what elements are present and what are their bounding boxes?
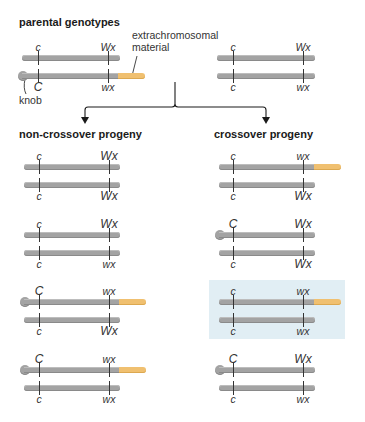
parental-pair-1: c Wx C wx xyxy=(22,44,162,94)
locus-wx-tick xyxy=(303,295,304,309)
chromosome xyxy=(24,385,120,391)
locus-c-tick xyxy=(38,51,39,65)
non-crossover-pair-4: C wx c wx xyxy=(24,356,164,406)
chromosome xyxy=(24,232,120,238)
locus-c-tick xyxy=(233,51,234,65)
crossover-pair-1: c wx c Wx xyxy=(219,153,359,203)
locus-c-tick xyxy=(39,363,40,377)
gene-label-c: c xyxy=(230,393,235,405)
locus-wx-tick xyxy=(303,228,304,242)
chromosome xyxy=(217,55,315,61)
chromosome-extra xyxy=(219,164,341,170)
locus-c-tick xyxy=(233,228,234,242)
gene-label-c: c xyxy=(230,258,235,270)
gene-label-wx: Wx xyxy=(100,189,117,203)
gene-label-wx: Wx xyxy=(294,189,311,203)
gene-label-wx: wx xyxy=(103,258,116,270)
gene-label-c: c xyxy=(36,393,41,405)
locus-wx-tick xyxy=(109,160,110,174)
gene-label-c: c xyxy=(230,190,235,202)
chromosome xyxy=(219,385,315,391)
gene-label-c: c xyxy=(230,325,235,337)
gene-label-c: C xyxy=(34,80,43,94)
chromosome xyxy=(22,55,120,61)
gene-label-c: c xyxy=(230,81,235,93)
extrachromosomal-segment xyxy=(314,164,341,170)
parental-pair-2: c Wx c wx xyxy=(217,44,357,94)
extrachromosomal-segment xyxy=(119,299,146,305)
gene-label-wx: Wx xyxy=(294,257,311,271)
chromosome xyxy=(24,317,120,323)
extrachromosomal-segment xyxy=(118,73,145,79)
chromosome xyxy=(217,73,315,79)
gene-label-wx: wx xyxy=(102,81,115,93)
gene-label-c: c xyxy=(36,258,41,270)
gene-label-wx: wx xyxy=(297,81,310,93)
chromosome-knobbed xyxy=(24,299,146,305)
gene-label-c: c xyxy=(36,190,41,202)
locus-c-tick xyxy=(233,295,234,309)
extrachromosomal-segment xyxy=(119,367,146,373)
locus-c-tick xyxy=(39,295,40,309)
non-crossover-pair-1: c Wx c Wx xyxy=(24,153,164,203)
chromosome xyxy=(219,250,315,256)
chromosome-knobbed xyxy=(22,73,145,79)
gene-label-wx: wx xyxy=(297,393,310,405)
locus-wx-tick xyxy=(108,51,109,65)
locus-wx-tick xyxy=(109,295,110,309)
locus-wx-tick xyxy=(109,228,110,242)
locus-wx-tick xyxy=(303,160,304,174)
locus-wx-tick xyxy=(109,363,110,377)
chromosome-knobbed xyxy=(219,232,315,238)
locus-c-tick xyxy=(233,363,234,377)
non-crossover-pair-2: c Wx c wx xyxy=(24,221,164,271)
locus-c-tick xyxy=(233,160,234,174)
crossover-pair-4: C Wx c wx xyxy=(219,356,359,406)
locus-c-tick xyxy=(39,160,40,174)
gene-label-wx: wx xyxy=(103,393,116,405)
chromosome-extra xyxy=(219,299,341,305)
non-crossover-pair-3: C wx c Wx xyxy=(24,288,164,338)
chromosome xyxy=(24,164,120,170)
chromosome xyxy=(219,182,315,188)
chromosome-knobbed xyxy=(24,367,146,373)
chromosome xyxy=(24,182,120,188)
chromosome-knobbed xyxy=(219,367,315,373)
locus-wx-tick xyxy=(303,51,304,65)
gene-label-c: c xyxy=(36,325,41,337)
gene-label-wx: Wx xyxy=(100,324,117,338)
locus-c-tick xyxy=(39,228,40,242)
crossover-pair-3-highlighted: c wx c wx xyxy=(219,288,359,338)
locus-wx-tick xyxy=(303,363,304,377)
chromosome xyxy=(219,317,315,323)
chromosome xyxy=(24,250,120,256)
gene-label-wx: wx xyxy=(297,325,310,337)
crossover-pair-2: C Wx c Wx xyxy=(219,221,359,271)
extrachromosomal-segment xyxy=(314,299,341,305)
